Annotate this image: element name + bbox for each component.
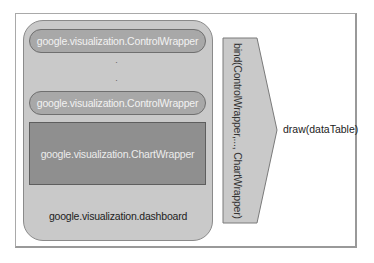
draw-label: draw(dataTable): [283, 123, 358, 135]
bind-label: bind(ControlWrapper,..., ChartWrapper): [232, 43, 244, 219]
bind-label-container: bind(ControlWrapper,..., ChartWrapper): [223, 40, 253, 222]
